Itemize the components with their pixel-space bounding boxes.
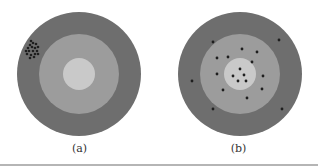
bullseye	[63, 58, 95, 90]
target-panel-b: (b)	[159, 0, 318, 164]
caption-b: (b)	[159, 142, 318, 155]
target-b	[159, 0, 318, 140]
caption-a: (a)	[0, 142, 159, 155]
bottom-divider	[0, 164, 318, 166]
target-panel-a: (a)	[0, 0, 159, 164]
target-a	[0, 0, 159, 140]
